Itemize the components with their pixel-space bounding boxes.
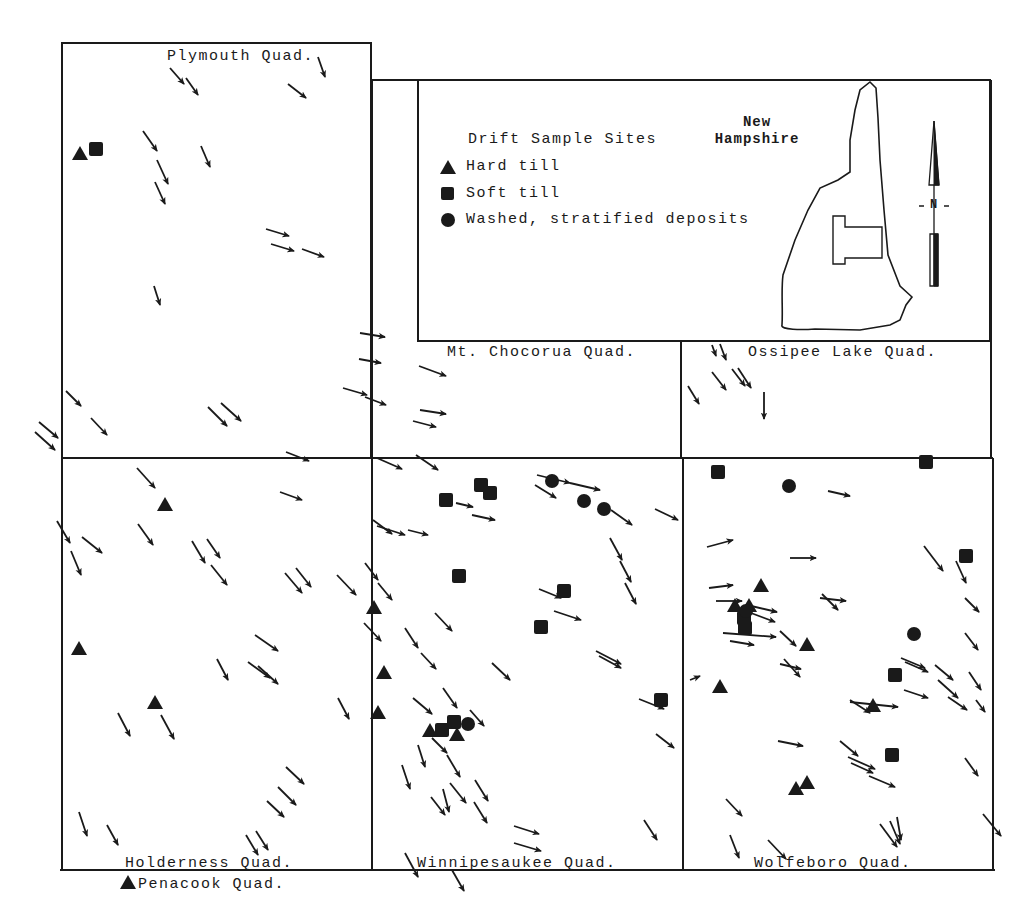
ice-flow-arrow <box>288 84 306 98</box>
ice-flow-arrow <box>421 653 436 669</box>
ice-flow-arrow <box>302 249 324 257</box>
ice-flow-arrow <box>39 422 58 438</box>
ice-flow-arrow <box>286 767 304 784</box>
state-name-line1: New <box>712 114 802 131</box>
ice-flow-arrow <box>71 551 81 575</box>
winnipesaukee-quad-label: Winnipesaukee Quad. <box>416 856 618 872</box>
ice-flow-arrow <box>419 366 446 376</box>
ice-flow-arrow <box>965 598 979 612</box>
ice-flow-arrow <box>337 575 356 595</box>
ice-flow-arrow <box>751 613 775 622</box>
ice-flow-arrow <box>965 758 978 776</box>
ice-flow-arrow <box>35 432 55 450</box>
drift-sample-sites <box>71 142 973 889</box>
soft-till-site-icon <box>557 584 571 598</box>
ice-flow-arrow <box>267 801 284 817</box>
hard-till-site-icon <box>799 775 815 789</box>
plymouth-quad-boundary <box>62 43 371 458</box>
ice-flow-arrow <box>413 698 432 714</box>
ice-flow-arrow <box>730 641 754 645</box>
ice-flow-arrow <box>192 541 205 563</box>
soft-till-site-icon <box>711 465 725 479</box>
ice-flow-arrow <box>726 799 742 816</box>
ice-flow-arrow <box>938 680 958 698</box>
legend-label: Soft till <box>466 185 561 202</box>
ice-flow-arrow <box>656 734 674 748</box>
washed-stratified-site-icon <box>597 502 611 516</box>
ice-flow-arrow <box>901 658 925 668</box>
ice-flow-arrow <box>644 820 657 840</box>
ice-flow-arrow <box>420 410 446 414</box>
ice-flow-arrow <box>820 598 846 601</box>
ice-flow-arrow <box>286 452 309 461</box>
ice-flow-arrow <box>405 628 418 648</box>
ice-flow-arrow <box>248 662 270 678</box>
soft-till-site-icon <box>483 486 497 500</box>
ice-flow-arrow <box>965 633 978 650</box>
soft-till-site-icon <box>89 142 103 156</box>
ice-flow-arrow <box>732 369 745 386</box>
ice-flow-arrow <box>79 812 87 836</box>
state-name-line2: Hampshire <box>712 131 802 148</box>
ice-flow-arrow <box>880 824 897 847</box>
square-icon <box>441 187 454 200</box>
ice-flow-arrow <box>318 57 325 77</box>
ice-flow-arrow <box>208 407 227 426</box>
ice-flow-arrow <box>655 509 678 520</box>
ice-flow-arrow <box>255 635 278 651</box>
ice-flow-arrow <box>625 583 636 604</box>
ice-flow-arrow <box>956 561 966 583</box>
ice-flow-arrow <box>976 700 985 712</box>
ice-flow-arrow <box>475 780 488 801</box>
wolfeboro-quad-label: Wolfeboro Quad. <box>753 856 913 872</box>
ice-flow-arrow <box>338 698 349 719</box>
ice-flow-arrow <box>948 697 967 710</box>
ice-flow-arrow <box>138 524 153 545</box>
ice-flow-arrow <box>443 688 457 708</box>
ice-flow-arrow <box>620 561 631 582</box>
legend-item-hard-till: Hard till <box>440 158 561 175</box>
ice-flow-arrow <box>709 585 733 588</box>
hard-till-site-icon <box>799 637 815 651</box>
ice-flow-arrow <box>611 510 632 525</box>
hard-till-site-icon <box>753 578 769 592</box>
soft-till-site-icon <box>435 723 449 737</box>
ice-flow-arrow <box>452 870 464 891</box>
hard-till-site-icon <box>366 600 382 614</box>
legend-title: Drift Sample Sites <box>468 131 657 148</box>
ice-flow-arrow <box>278 787 296 805</box>
ice-flow-arrow <box>285 573 302 593</box>
ice-flow-arrow <box>780 631 796 646</box>
ice-flow-arrow <box>217 659 228 680</box>
ice-flow-arrow <box>474 802 487 823</box>
ice-flow-arrow <box>822 594 838 610</box>
ice-flow-arrow <box>851 763 873 773</box>
ice-flow-arrow <box>554 611 581 620</box>
ice-flow-arrow <box>157 160 168 184</box>
study-area-outline <box>833 216 882 264</box>
ice-flow-arrow <box>280 492 302 500</box>
ice-flow-arrow <box>82 537 102 553</box>
ice-flow-arrow <box>408 530 428 535</box>
ice-flow-arrow <box>450 783 466 803</box>
washed-stratified-site-icon <box>907 627 921 641</box>
ice-flow-arrow <box>472 515 495 520</box>
ice-flow-arrow <box>712 345 716 356</box>
hard-till-site-icon <box>72 146 88 160</box>
ice-flow-arrow <box>969 672 981 690</box>
ice-flow-arrow <box>377 458 402 469</box>
hard-till-site-icon <box>147 695 163 709</box>
ice-flow-arrow <box>828 491 850 496</box>
ice-flow-arrow <box>118 713 130 736</box>
legend-label: Hard till <box>466 158 561 175</box>
chocorua-quad-label: Mt. Chocorua Quad. <box>446 345 637 361</box>
ice-flow-arrow <box>170 68 184 84</box>
hard-till-site-icon <box>712 679 728 693</box>
ice-flow-arrow <box>447 755 460 777</box>
holderness-quad-label: Holderness Quad. <box>124 856 294 872</box>
legend-item-soft-till: Soft till <box>440 185 561 202</box>
hard-till-site-icon <box>449 727 465 741</box>
ice-flow-arrow <box>688 386 699 404</box>
ice-flow-arrow <box>730 835 739 858</box>
ice-flow-arrow <box>402 765 410 789</box>
